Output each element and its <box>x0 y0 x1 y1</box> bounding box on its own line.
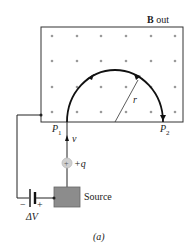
p1-subscript: 1 <box>58 129 62 137</box>
p2-label: P2 <box>160 124 170 137</box>
battery-minus: − <box>20 200 26 210</box>
p1-label: P1 <box>52 124 62 137</box>
figure-caption: (a) <box>93 232 105 242</box>
source-box <box>54 187 80 207</box>
battery-plus: + <box>37 200 43 210</box>
source-label: Source <box>84 192 112 202</box>
voltage-label: ΔV <box>26 212 38 222</box>
circuit-wire <box>17 115 41 198</box>
radius-label: r <box>133 95 137 105</box>
trajectory-arrow-3 <box>160 115 166 121</box>
velocity-label: v <box>72 134 76 144</box>
p2-subscript: 2 <box>166 129 170 137</box>
particle-trajectory <box>67 70 163 122</box>
velocity-arrow-icon <box>65 135 69 141</box>
field-label: B out <box>147 15 169 25</box>
field-symbol: B <box>147 14 154 25</box>
field-dots <box>51 35 177 114</box>
charge-label: +q <box>74 159 86 169</box>
field-direction: out <box>154 14 169 25</box>
svg-text:+: + <box>64 159 69 168</box>
